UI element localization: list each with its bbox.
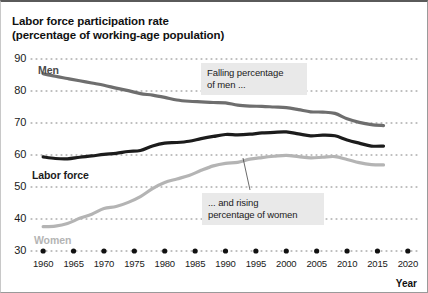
x-axis-tick-dot: [41, 248, 46, 253]
y-axis-tick-label: 40: [4, 212, 26, 224]
x-axis-tick-dot: [314, 248, 319, 253]
x-axis-tick-dot: [223, 248, 228, 253]
x-axis-tick-dot: [344, 248, 349, 253]
annotation-women: ... and rising percentage of women: [202, 193, 324, 225]
x-axis-tick-label: 2000: [269, 258, 303, 269]
x-axis-tick-label: 1965: [57, 258, 91, 269]
x-axis-tick-label: 2005: [300, 258, 334, 269]
x-axis-tick-label: 1980: [148, 258, 182, 269]
series-label-women: Women: [34, 234, 71, 246]
x-axis-tick-dot: [71, 248, 76, 253]
x-axis-tick-label: 2015: [360, 258, 394, 269]
y-axis-tick-label: 50: [4, 180, 26, 192]
leader-line-women: [243, 158, 250, 190]
x-axis-title: Year: [396, 278, 417, 289]
x-axis-tick-dot: [284, 248, 289, 253]
x-axis-tick-label: 1995: [239, 258, 273, 269]
y-axis-tick-label: 60: [4, 148, 26, 160]
plot-area: [1, 2, 428, 293]
x-axis-tick-dot: [405, 248, 410, 253]
x-axis-tick-label: 1985: [178, 258, 212, 269]
series-label-men: Men: [38, 64, 59, 76]
annotation-men: Falling percentage of men ...: [201, 63, 307, 95]
x-axis-tick-label: 1990: [209, 258, 243, 269]
x-axis-tick-label: 2020: [391, 258, 425, 269]
x-axis-tick-label: 1975: [117, 258, 151, 269]
y-axis-tick-label: 80: [4, 84, 26, 96]
x-axis-tick-dot: [375, 248, 380, 253]
x-axis-tick-label: 1970: [87, 258, 121, 269]
x-axis-tick-dot: [253, 248, 258, 253]
x-axis-tick-dot: [101, 248, 106, 253]
x-axis-tick-label: 2010: [330, 258, 364, 269]
x-axis-tick-dot: [132, 248, 137, 253]
x-axis-tick-dot: [193, 248, 198, 253]
y-axis-tick-label: 70: [4, 116, 26, 128]
y-axis-tick-label: 30: [4, 244, 26, 256]
x-axis-tick-label: 1960: [26, 258, 60, 269]
x-axis-tick-dot: [162, 248, 167, 253]
y-axis-tick-label: 90: [4, 52, 26, 64]
chart-figure: Labor force participation rate (percenta…: [0, 0, 428, 293]
series-label-labor-force: Labor force: [32, 169, 89, 181]
